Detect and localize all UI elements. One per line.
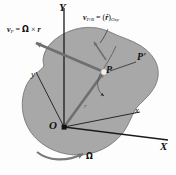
equation-vp: vP = Ω × r	[7, 26, 41, 35]
omega-label: Ω	[86, 153, 93, 161]
vp-r: r	[37, 25, 40, 34]
axis-label-x: x	[135, 106, 139, 115]
position-vector-label-r: r	[84, 103, 87, 110]
vp-equals: =	[14, 25, 23, 34]
vrel-equals: =	[94, 13, 103, 22]
vp-omega: Ω	[22, 25, 29, 34]
axis-label-y: y	[31, 70, 35, 79]
point-label-P-prime: P'	[137, 52, 146, 62]
axis-label-Y: Y	[59, 2, 66, 13]
mechanics-diagram: Y X y x O P P' r Ω vP = Ω × r vP/B = (ṙ)…	[0, 0, 176, 175]
vrel-subscript: P/B	[87, 17, 94, 22]
equation-vrel: vP/B = (ṙ)Oxy	[83, 14, 119, 23]
vrel-frame: Oxy	[111, 17, 119, 22]
origin-marker	[62, 125, 67, 130]
point-label-P: P	[106, 65, 112, 75]
origin-label-O: O	[49, 120, 57, 131]
axis-label-X: X	[160, 141, 167, 152]
